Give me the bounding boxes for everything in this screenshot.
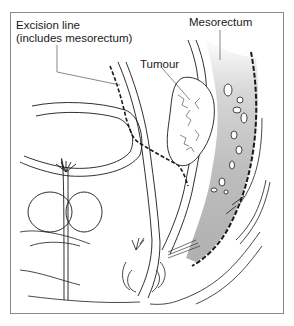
pelvis-diagram xyxy=(0,0,294,326)
excision-line-label: Excision line (includes mesorectum) xyxy=(16,19,132,45)
prostate xyxy=(28,158,102,300)
excision-line-label-line2: (includes mesorectum) xyxy=(16,32,132,45)
tumour xyxy=(167,77,214,165)
excision-leader xyxy=(57,45,120,85)
bladder xyxy=(20,103,142,177)
mesorectum-label: Mesorectum xyxy=(189,16,252,29)
tumour-label: Tumour xyxy=(140,58,179,71)
excision-line-label-line1: Excision line xyxy=(16,19,132,32)
